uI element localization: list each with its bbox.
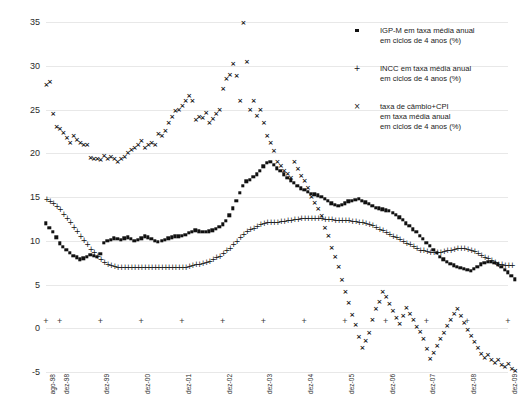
data-point-series-2: × bbox=[220, 87, 225, 92]
x-marker-icon: × bbox=[352, 102, 362, 112]
data-point-series-2: × bbox=[217, 107, 222, 112]
data-point-series-2: × bbox=[258, 108, 263, 113]
x-axis-tick-mark: + bbox=[423, 318, 430, 325]
y-axis-tick-label: 5 bbox=[35, 280, 40, 290]
data-point-series-2: × bbox=[329, 245, 334, 250]
data-point-series-2: × bbox=[200, 116, 205, 121]
data-point-series-2: × bbox=[241, 20, 246, 25]
square-marker-icon bbox=[352, 26, 362, 36]
x-axis-tick-mark: + bbox=[341, 318, 348, 325]
gridline bbox=[46, 285, 508, 286]
y-axis-tick-label: 0 bbox=[35, 323, 40, 333]
data-point-series-0 bbox=[228, 214, 231, 217]
legend-item-label: IGP-M em taxa média anual em ciclos de 4… bbox=[380, 26, 517, 46]
data-point-series-2: × bbox=[210, 117, 215, 122]
data-point-series-2: × bbox=[397, 321, 402, 326]
data-point-series-2: × bbox=[288, 175, 293, 180]
gridline bbox=[46, 22, 508, 23]
data-point-series-2: × bbox=[339, 278, 344, 283]
data-point-series-2: × bbox=[434, 343, 439, 348]
data-point-series-0 bbox=[241, 184, 244, 187]
x-axis-tick-mark: + bbox=[56, 318, 63, 325]
data-point-series-2: × bbox=[451, 312, 456, 317]
data-point-series-2: × bbox=[332, 254, 337, 259]
x-axis-tick-mark: + bbox=[178, 318, 185, 325]
legend-item-cambio-cpi[interactable]: × taxa de câmbio+CPI em taxa média anual… bbox=[352, 102, 517, 132]
data-point-series-2: × bbox=[190, 98, 195, 103]
x-axis-tick-label: dez-98 bbox=[63, 374, 70, 394]
data-point-series-2: × bbox=[84, 143, 89, 148]
data-point-series-2: × bbox=[376, 300, 381, 305]
x-axis-tick-mark: + bbox=[301, 318, 308, 325]
data-point-series-2: × bbox=[349, 313, 354, 318]
data-point-series-0 bbox=[54, 236, 57, 239]
data-point-series-0 bbox=[235, 199, 238, 202]
x-axis-tick-label: dez-01 bbox=[185, 374, 192, 394]
x-axis-tick-mark: + bbox=[219, 318, 226, 325]
y-axis-tick-label: 25 bbox=[30, 105, 40, 115]
plus-marker-icon: + bbox=[352, 64, 362, 74]
y-axis: -505101520253035 bbox=[0, 22, 40, 372]
data-point-series-2: × bbox=[353, 322, 358, 327]
y-axis-tick-label: 35 bbox=[30, 17, 40, 27]
x-axis-tick-mark: + bbox=[97, 318, 104, 325]
data-point-series-0 bbox=[513, 278, 516, 281]
data-point-series-2: × bbox=[159, 133, 164, 138]
legend-item-incc[interactable]: + INCC em taxa média anual em ciclos de … bbox=[352, 64, 517, 88]
x-axis-tick-label: ago-98 bbox=[49, 374, 56, 394]
x-axis-tick-label: dez-00 bbox=[144, 374, 151, 394]
chart-legend: IGP-M em taxa média anual em ciclos de 4… bbox=[352, 26, 517, 146]
data-point-series-2: × bbox=[162, 128, 167, 133]
data-point-series-2: × bbox=[234, 74, 239, 79]
gridline bbox=[46, 241, 508, 242]
data-point-series-0 bbox=[221, 222, 224, 225]
y-axis-tick-label: 15 bbox=[30, 192, 40, 202]
y-axis-tick-label: 10 bbox=[30, 236, 40, 246]
data-point-series-2: × bbox=[444, 323, 449, 328]
data-point-series-0 bbox=[48, 226, 51, 229]
x-axis-tick-mark: + bbox=[464, 318, 471, 325]
data-point-series-2: × bbox=[359, 345, 364, 350]
x-axis: ago-98+dez-98+dez-99+dez-00+dez-01+dez-0… bbox=[46, 372, 508, 417]
y-axis-tick-label: 30 bbox=[30, 61, 40, 71]
y-axis-tick-label: 20 bbox=[30, 148, 40, 158]
data-point-series-2: × bbox=[356, 335, 361, 340]
data-point-series-2: × bbox=[230, 62, 235, 67]
data-point-series-2: × bbox=[322, 225, 327, 230]
data-point-series-2: × bbox=[512, 369, 517, 374]
data-point-series-2: × bbox=[431, 350, 436, 355]
data-point-series-0 bbox=[224, 219, 227, 222]
data-point-series-2: × bbox=[421, 336, 426, 341]
data-point-series-2: × bbox=[346, 300, 351, 305]
data-point-series-2: × bbox=[203, 111, 208, 116]
x-axis-tick-label: dez-02 bbox=[226, 374, 233, 394]
data-point-series-0 bbox=[255, 173, 258, 176]
data-point-series-0 bbox=[51, 230, 54, 233]
x-axis-tick-label: dez-09 bbox=[511, 374, 518, 394]
data-point-series-1: + bbox=[509, 263, 514, 268]
data-point-series-2: × bbox=[254, 113, 259, 118]
data-point-series-2: × bbox=[424, 347, 429, 352]
data-point-series-2: × bbox=[319, 214, 324, 219]
data-point-series-2: × bbox=[336, 265, 341, 270]
data-point-series-2: × bbox=[427, 356, 432, 361]
data-point-series-2: × bbox=[261, 120, 266, 125]
x-axis-tick-label: dez-06 bbox=[389, 374, 396, 394]
legend-item-label: INCC em taxa média anual em ciclos de 4 … bbox=[380, 64, 517, 84]
data-point-series-2: × bbox=[438, 336, 443, 341]
legend-item-igpm[interactable]: IGP-M em taxa média anual em ciclos de 4… bbox=[352, 26, 517, 50]
data-point-series-2: × bbox=[169, 114, 174, 119]
x-axis-tick-label: dez-04 bbox=[307, 374, 314, 394]
data-point-series-0 bbox=[238, 191, 241, 194]
data-point-series-2: × bbox=[251, 98, 256, 103]
data-point-series-2: × bbox=[237, 98, 242, 103]
data-point-series-2: × bbox=[370, 317, 375, 322]
data-point-series-2: × bbox=[244, 60, 249, 65]
gridline bbox=[46, 197, 508, 198]
data-point-series-2: × bbox=[179, 104, 184, 109]
data-point-series-0 bbox=[44, 222, 47, 225]
x-axis-tick-label: dez-03 bbox=[266, 374, 273, 394]
data-point-series-2: × bbox=[268, 140, 273, 145]
data-point-series-2: × bbox=[305, 186, 310, 191]
